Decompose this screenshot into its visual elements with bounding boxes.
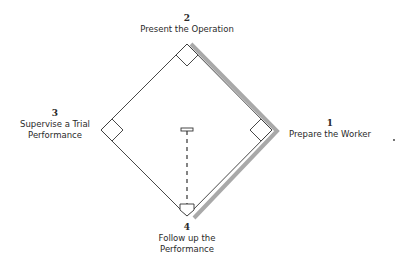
stray-dot	[393, 139, 395, 141]
pitcher-plate	[181, 128, 193, 131]
step-3-text-line1: Supervise a Trial	[5, 119, 105, 130]
step-4-label: 4 Follow up the Performance	[137, 222, 237, 255]
step-4-number: 4	[137, 222, 237, 233]
step-4-text-line2: Performance	[137, 244, 237, 255]
step-2-number: 2	[117, 13, 257, 24]
step-1-number: 1	[280, 118, 380, 129]
home-plate	[180, 204, 194, 216]
step-1-label: 1 Prepare the Worker	[280, 118, 380, 140]
step-2-text: Present the Operation	[117, 24, 257, 35]
step-2-label: 2 Present the Operation	[117, 13, 257, 35]
step-3-label: 3 Supervise a Trial Performance	[5, 108, 105, 141]
step-3-text-line2: Performance	[5, 130, 105, 141]
step-3-number: 3	[5, 108, 105, 119]
step-1-text: Prepare the Worker	[280, 129, 380, 140]
step-4-text-line1: Follow up the	[137, 233, 237, 244]
